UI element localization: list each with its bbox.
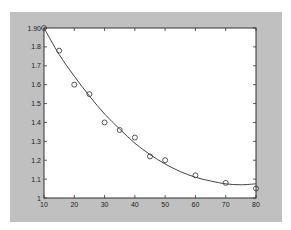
x-tick-label: 20	[70, 201, 78, 208]
x-tick-label: 10	[40, 201, 48, 208]
x-tick-label: 50	[161, 201, 169, 208]
y-tick-label: 1.4	[31, 119, 41, 126]
x-tick-label: 40	[131, 201, 139, 208]
x-tick-label: 30	[101, 201, 109, 208]
y-tick-label: 1.90	[27, 25, 41, 32]
y-tick-label: 1.8	[31, 43, 41, 50]
y-tick-label: 1.7	[31, 62, 41, 69]
plot-area	[44, 28, 256, 198]
x-tick-label: 60	[192, 201, 200, 208]
scatter-fit-chart: 102030405060708011.11.21.31.41.51.61.71.…	[0, 0, 291, 230]
x-tick-label: 80	[252, 201, 260, 208]
y-tick-label: 1.6	[31, 81, 41, 88]
y-tick-label: 1.3	[31, 138, 41, 145]
y-tick-label: 1.5	[31, 100, 41, 107]
y-tick-label: 1	[37, 195, 41, 202]
y-tick-label: 1.2	[31, 157, 41, 164]
y-tick-label: 1.1	[31, 176, 41, 183]
x-tick-label: 70	[222, 201, 230, 208]
